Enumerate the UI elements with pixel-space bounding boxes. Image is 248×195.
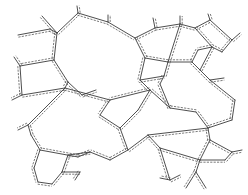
cell-network-diagram xyxy=(0,0,248,195)
diagram-background xyxy=(0,0,248,195)
